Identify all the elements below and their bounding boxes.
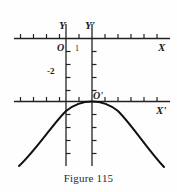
origin-label: O	[57, 42, 64, 53]
y-axis-ticks	[66, 52, 71, 154]
coordinate-plot: Y Y' X X' O O' 1 -2	[0, 0, 177, 192]
y-axis-group	[66, 24, 71, 166]
tick-label-one: 1	[75, 44, 79, 53]
x-axis-label: X	[157, 41, 166, 53]
y-prime-axis-label: Y'	[85, 19, 95, 31]
origin-prime-label: O'	[93, 90, 103, 101]
x-axis-ticks	[21, 34, 158, 39]
figure-caption: Figure 115	[0, 172, 177, 184]
figure-container: Y Y' X X' O O' 1 -2 Figure 115	[0, 0, 177, 192]
tick-label-minus-two: -2	[47, 66, 55, 76]
x-prime-axis-label: X'	[155, 104, 166, 116]
